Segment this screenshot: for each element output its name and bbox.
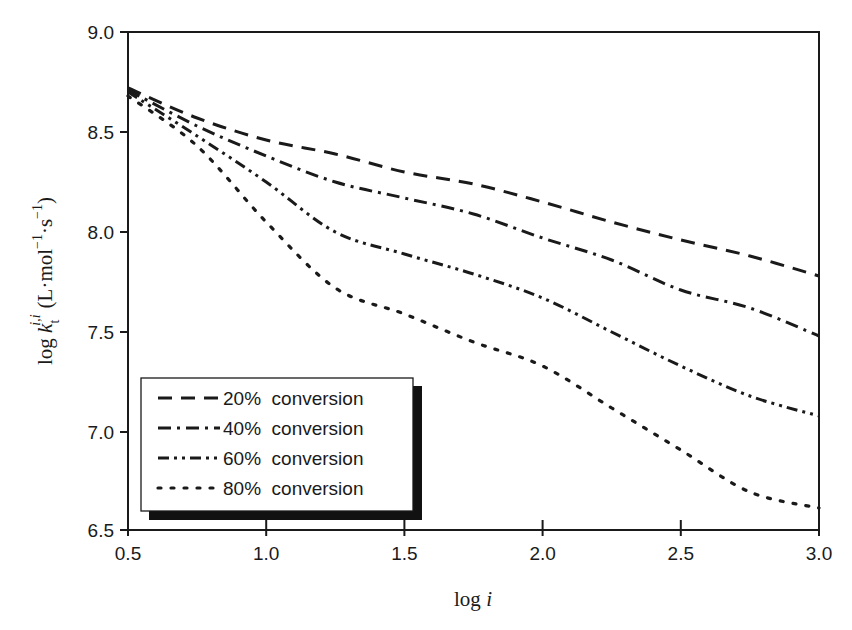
y-title-exp1: −1 <box>30 234 45 249</box>
y-tick-label: 7.0 <box>88 422 114 443</box>
y-tick-label: 7.5 <box>88 322 114 343</box>
y-tick-label: 8.0 <box>88 222 114 243</box>
y-title-close: ) <box>33 197 57 204</box>
y-tick-label: 9.0 <box>88 22 114 43</box>
x-axis-title: log i <box>454 587 492 611</box>
x-axis-title-var: i <box>486 587 492 611</box>
x-tick-label: 2.5 <box>668 543 694 564</box>
y-title-units: (L·mol <box>33 249 57 309</box>
y-axis-title: log kti,i(L·mol−1·s−1) <box>28 197 62 365</box>
y-title-superscript: i,i <box>28 314 43 325</box>
x-tick-label: 0.5 <box>115 543 141 564</box>
x-tick-label: 1.5 <box>391 543 417 564</box>
y-axis-ticks: 6.57.07.58.08.59.0 <box>88 22 128 541</box>
series-line-20pct <box>128 88 819 276</box>
y-tick-label: 6.5 <box>88 520 114 541</box>
x-tick-label: 1.0 <box>253 543 279 564</box>
line-chart: 0.51.01.52.02.53.0 6.57.07.58.08.59.0 lo… <box>0 0 852 630</box>
x-tick-label: 3.0 <box>806 543 832 564</box>
legend: 20% conversion40% conversion60% conversi… <box>141 378 422 520</box>
legend-label: 60% conversion <box>223 448 363 469</box>
y-title-units-s: ·s <box>33 219 57 234</box>
y-title-exp2: −1 <box>30 204 45 219</box>
legend-label: 40% conversion <box>223 418 363 439</box>
x-axis-ticks: 0.51.01.52.02.53.0 <box>115 520 832 564</box>
x-tick-label: 2.0 <box>529 543 555 564</box>
legend-label: 80% conversion <box>223 478 363 499</box>
y-title-subscript: t <box>47 320 62 324</box>
svg-text:log kti,i(L·mol−1·s−1): log kti,i(L·mol−1·s−1) <box>28 197 62 365</box>
x-axis-title-log: log <box>454 587 486 611</box>
y-title-log: log <box>33 333 57 365</box>
y-tick-label: 8.5 <box>88 122 114 143</box>
series-line-40pct <box>128 90 819 336</box>
legend-label: 20% conversion <box>223 388 363 409</box>
